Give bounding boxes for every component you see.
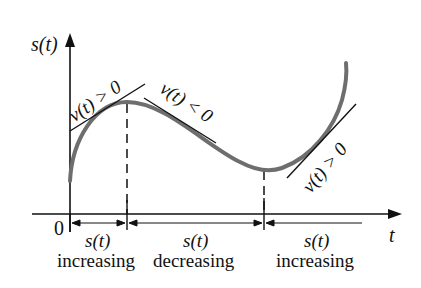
interval-1-var: s(t): [85, 231, 110, 250]
interval-arrow-3: [266, 220, 362, 226]
interval-3-state: increasing: [276, 251, 354, 270]
interval-2-var: s(t): [183, 231, 208, 250]
interval-arrow-1: [72, 220, 125, 226]
x-axis-arrow-icon: [388, 209, 402, 219]
y-axis-label: s(t): [31, 34, 58, 54]
interval-3-var: s(t): [304, 231, 329, 250]
position-graph: [0, 0, 421, 288]
interval-2-state: decreasing: [153, 251, 234, 270]
interval-1-state: increasing: [57, 251, 135, 270]
origin-label: 0: [54, 218, 64, 238]
x-axis-label: t: [389, 225, 395, 245]
interval-arrow-2: [129, 220, 262, 226]
y-axis-arrow-icon: [65, 33, 75, 47]
